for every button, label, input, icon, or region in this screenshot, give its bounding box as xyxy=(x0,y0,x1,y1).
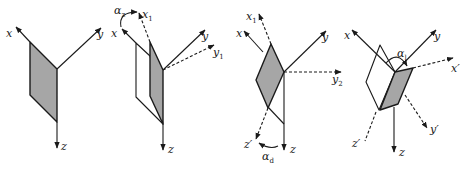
y1-axis xyxy=(163,45,214,70)
y-label: y xyxy=(321,31,329,44)
panel-4: x y αl x′ y′ z′ z xyxy=(344,29,460,159)
x-axis xyxy=(16,27,30,42)
x-label: x xyxy=(6,27,13,40)
x-prime-label: x′ xyxy=(451,62,460,75)
z-label: z xyxy=(60,140,67,153)
panel-1: x y z xyxy=(6,27,104,153)
x-label: x xyxy=(236,27,243,40)
y-axis xyxy=(284,31,326,72)
x-prime-axis xyxy=(413,58,453,68)
alpha-d-label: αd xyxy=(262,150,274,165)
x1-label: x1 xyxy=(246,10,257,25)
x1-axis xyxy=(259,14,271,44)
y1-label: y1 xyxy=(212,46,224,61)
x-axis xyxy=(244,31,263,52)
z-label: z xyxy=(289,143,296,156)
x1-label: x1 xyxy=(142,8,153,23)
z-prime-label: z′ xyxy=(243,138,253,151)
z-prime-axis xyxy=(365,112,376,141)
panel-3: x x1 y y2 z′ αd z xyxy=(236,10,343,165)
panel-2: x x1 αz y y1 z xyxy=(111,4,224,156)
z-label: z xyxy=(167,143,174,156)
y-prime-axis xyxy=(405,95,427,128)
x-axis xyxy=(122,29,136,43)
rotation-arc-alpha-d xyxy=(259,143,278,147)
alpha-l-label: αl xyxy=(397,47,407,62)
rotation-sequence-diagram: x y z x x1 αz y y1 z x x1 y y2 z′ αd xyxy=(0,0,468,169)
y-label: y xyxy=(433,30,441,43)
z-label: z xyxy=(398,146,405,159)
z-prime-axis xyxy=(256,108,268,139)
y-axis xyxy=(163,30,205,70)
y-axis xyxy=(57,28,101,69)
rotated-plate xyxy=(256,44,284,108)
z-prime-label: z′ xyxy=(351,137,361,150)
alpha-z-label: αz xyxy=(114,4,125,19)
y-label: y xyxy=(96,28,104,41)
y-prime-label: y′ xyxy=(429,123,439,136)
shaded-plate xyxy=(30,42,57,122)
x-label: x xyxy=(344,29,351,42)
y-label: y xyxy=(201,30,209,43)
plate-edge xyxy=(268,107,284,124)
x-label: x xyxy=(111,27,118,40)
y2-label: y2 xyxy=(331,73,343,88)
